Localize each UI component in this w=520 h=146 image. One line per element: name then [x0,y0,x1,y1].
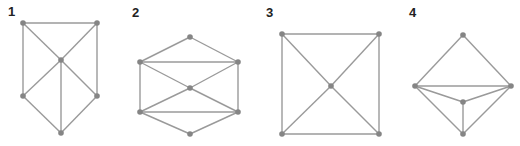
graph-vertex [376,131,382,137]
graph-2: 2 [132,5,241,137]
graph-vertex [460,99,466,105]
graph-vertex [328,83,334,89]
graph-vertex [187,34,193,40]
graph-3: 3 [266,5,382,137]
graph-label: 2 [132,5,139,20]
graph-edge [331,86,379,134]
graph-vertex [460,32,466,38]
graph-edge [140,62,190,88]
graph-1: 1 [8,4,100,136]
graph-vertex [58,57,64,63]
graph-vertex [137,59,143,65]
graph-edge [282,34,331,86]
graph-edge [23,96,61,133]
graph-vertex [137,109,143,115]
graph-edge [415,35,463,86]
graph-edge [140,37,190,62]
graph-edge [61,60,97,96]
graph-vertex [279,31,285,37]
graph-edge [190,37,238,62]
graph-vertex [412,83,418,89]
graph-vertex [20,93,26,99]
graphs-layer: 1234 [8,4,514,137]
graph-edge [140,88,190,112]
graph-edge [190,62,238,88]
graph-diagrams: 1234 [0,0,520,146]
graph-edge [140,112,190,134]
graph-edge [415,86,463,134]
graph-label: 1 [8,4,15,19]
graph-vertex [460,131,466,137]
graph-edge [331,34,379,86]
graph-edge [190,88,238,112]
graph-edge [61,96,97,133]
graph-vertex [187,131,193,137]
graph-edge [282,86,331,134]
graph-vertex [187,85,193,91]
graph-edge [61,23,97,60]
graph-vertex [235,109,241,115]
graph-edge [463,35,511,86]
graph-vertex [58,130,64,136]
graph-4: 4 [409,5,514,137]
graph-vertex [20,20,26,26]
graph-edge [463,86,511,134]
graph-vertex [376,31,382,37]
graph-vertex [508,83,514,89]
graph-edge [190,112,238,134]
graph-vertex [94,93,100,99]
graph-vertex [279,131,285,137]
graph-edge [23,60,61,96]
graph-label: 4 [409,5,417,20]
graph-label: 3 [266,5,273,20]
graph-edge [23,23,61,60]
graph-vertex [235,59,241,65]
graph-vertex [94,20,100,26]
